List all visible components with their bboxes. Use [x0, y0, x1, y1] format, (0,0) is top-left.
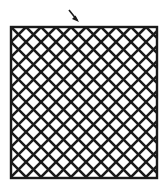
lattice-line	[161, 27, 166, 189]
figure-container	[0, 0, 166, 189]
lattice-figure	[0, 0, 166, 189]
arrow-head-icon	[72, 16, 79, 23]
pointer-arrow	[69, 10, 79, 22]
lattice-line	[0, 27, 11, 189]
